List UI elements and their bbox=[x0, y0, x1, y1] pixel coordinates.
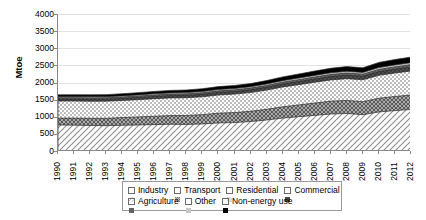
y-tick-label: 1500 bbox=[18, 95, 54, 104]
x-tick-mark bbox=[185, 151, 186, 154]
x-tick-mark bbox=[346, 151, 347, 154]
x-tick-mark bbox=[105, 151, 106, 154]
x-tick-mark bbox=[410, 151, 411, 154]
legend-item-other[interactable]: Other bbox=[185, 197, 216, 206]
transport-swatch bbox=[174, 187, 181, 194]
residential-swatch bbox=[226, 187, 233, 194]
y-tick-label: 2500 bbox=[18, 61, 54, 70]
y-tick-label: 1000 bbox=[18, 112, 54, 121]
x-tick-mark bbox=[201, 151, 202, 154]
chart-legend: IndustryTransportResidentialCommercialAg… bbox=[122, 181, 342, 211]
x-tick-mark bbox=[362, 151, 363, 154]
x-tick-mark bbox=[73, 151, 74, 154]
legend-item-non-energy-use[interactable]: Non-energy use bbox=[222, 197, 292, 206]
x-tick-label: 1993 bbox=[101, 157, 110, 187]
y-tick-label: 3500 bbox=[18, 27, 54, 36]
x-tick-mark bbox=[57, 151, 58, 154]
x-tick-label: 2011 bbox=[389, 157, 398, 187]
x-tick-label: 1990 bbox=[53, 157, 62, 187]
series-layers bbox=[58, 14, 410, 151]
x-tick-mark bbox=[169, 151, 170, 154]
y-tick-label: 4000 bbox=[18, 10, 54, 19]
x-tick-label: 2008 bbox=[341, 157, 350, 187]
plot-area bbox=[57, 14, 410, 151]
industry-swatch bbox=[128, 187, 135, 194]
x-tick-label: 2012 bbox=[406, 157, 415, 187]
agriculture-swatch bbox=[128, 198, 135, 205]
legend-row: AgricultureOtherNon-energy use bbox=[128, 196, 337, 207]
legend-label: Other bbox=[195, 197, 216, 206]
legend-item-commercial[interactable]: Commercial bbox=[284, 186, 339, 195]
legend-label: Transport bbox=[184, 186, 220, 195]
legend-label: Non-energy use bbox=[232, 197, 292, 206]
x-tick-label: 1992 bbox=[85, 157, 94, 187]
x-tick-mark bbox=[394, 151, 395, 154]
legend-label: Industry bbox=[138, 186, 168, 195]
legend-label: Commercial bbox=[294, 186, 339, 195]
other-swatch bbox=[185, 198, 192, 205]
y-tick-label: 2000 bbox=[18, 78, 54, 87]
x-tick-mark bbox=[330, 151, 331, 154]
x-tick-mark bbox=[282, 151, 283, 154]
y-tick-label: 0 bbox=[18, 147, 54, 156]
stacked-area-chart: Mtoe 05001000150020002500300035004000 bbox=[0, 0, 426, 220]
x-tick-mark bbox=[314, 151, 315, 154]
legend-label: Agriculture bbox=[138, 197, 179, 206]
legend-row: IndustryTransportResidentialCommercial bbox=[128, 185, 337, 196]
x-tick-label: 2010 bbox=[373, 157, 382, 187]
x-tick-mark bbox=[250, 151, 251, 154]
legend-item-industry[interactable]: Industry bbox=[128, 186, 168, 195]
nonenergy-swatch bbox=[222, 198, 229, 205]
legend-item-transport[interactable]: Transport bbox=[174, 186, 220, 195]
legend-item-agriculture[interactable]: Agriculture bbox=[128, 197, 179, 206]
legend-item-residential[interactable]: Residential bbox=[226, 186, 278, 195]
x-tick-label: 1991 bbox=[69, 157, 78, 187]
x-tick-mark bbox=[121, 151, 122, 154]
x-tick-mark bbox=[153, 151, 154, 154]
y-tick-label: 3000 bbox=[18, 44, 54, 53]
x-tick-mark bbox=[266, 151, 267, 154]
x-tick-mark bbox=[89, 151, 90, 154]
x-tick-mark bbox=[137, 151, 138, 154]
commercial-swatch bbox=[284, 187, 291, 194]
x-tick-mark bbox=[378, 151, 379, 154]
y-axis-tick-labels: 05001000150020002500300035004000 bbox=[14, 0, 54, 160]
legend-label: Residential bbox=[236, 186, 278, 195]
x-tick-mark bbox=[217, 151, 218, 154]
x-tick-mark bbox=[234, 151, 235, 154]
y-tick-label: 500 bbox=[18, 129, 54, 138]
x-tick-label: 2009 bbox=[357, 157, 366, 187]
x-tick-mark bbox=[298, 151, 299, 154]
